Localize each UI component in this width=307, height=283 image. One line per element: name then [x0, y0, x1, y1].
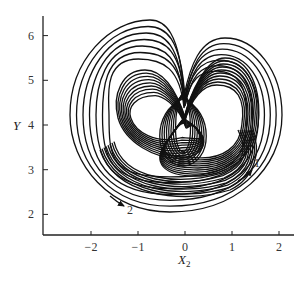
y-tick-label: 6: [28, 29, 34, 43]
x-tick-label: 2: [276, 240, 282, 254]
y-tick-label: 4: [28, 118, 34, 132]
y-tick-label: 3: [28, 163, 34, 177]
y-axis-label: Y: [13, 118, 22, 133]
y-tick-label: 2: [28, 207, 34, 221]
x-axis-label-subscript: 2: [186, 259, 191, 269]
x-tick-label: −1: [132, 240, 145, 254]
y-ticks: 23456: [28, 29, 48, 222]
x-tick-label: −2: [85, 240, 98, 254]
trajectory-curves: [70, 20, 282, 212]
y-tick-label: 5: [28, 73, 34, 87]
trajectory-2-label: 2: [127, 203, 133, 217]
phase-plot: −2−1012 23456 Y X2 1 2: [0, 0, 307, 283]
trajectory-1-label: 1: [254, 156, 260, 170]
x-tick-label: 1: [229, 240, 235, 254]
x-axis-label: X2: [177, 252, 190, 269]
